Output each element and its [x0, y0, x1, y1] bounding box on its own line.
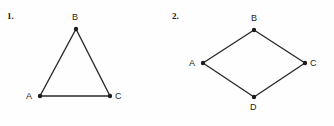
figure-2: 2. ABCD — [167, 0, 334, 126]
figure-1-drawing — [0, 0, 167, 126]
vertex-point-A — [38, 94, 42, 98]
vertex-point-B — [74, 27, 78, 31]
vertex-label-B: B — [72, 13, 78, 22]
worksheet-sheet: 1. ABC 2. ABCD — [0, 0, 334, 126]
vertex-label-D: D — [250, 103, 257, 112]
vertex-point-C — [108, 94, 112, 98]
vertex-label-A: A — [189, 59, 195, 68]
edge-BC — [76, 29, 110, 96]
edge-AB — [40, 29, 76, 96]
vertex-point-B — [252, 28, 256, 32]
edge-AB — [203, 30, 254, 63]
vertex-label-A: A — [26, 92, 32, 101]
vertex-point-A — [201, 61, 205, 65]
edge-DA — [203, 63, 254, 97]
vertex-label-C: C — [115, 92, 122, 101]
vertex-label-B: B — [251, 14, 257, 23]
edge-BC — [254, 30, 305, 63]
vertex-point-C — [303, 61, 307, 65]
edge-CD — [254, 63, 305, 97]
vertex-point-D — [252, 95, 256, 99]
figure-1: 1. ABC — [0, 0, 167, 126]
vertex-label-C: C — [310, 59, 317, 68]
